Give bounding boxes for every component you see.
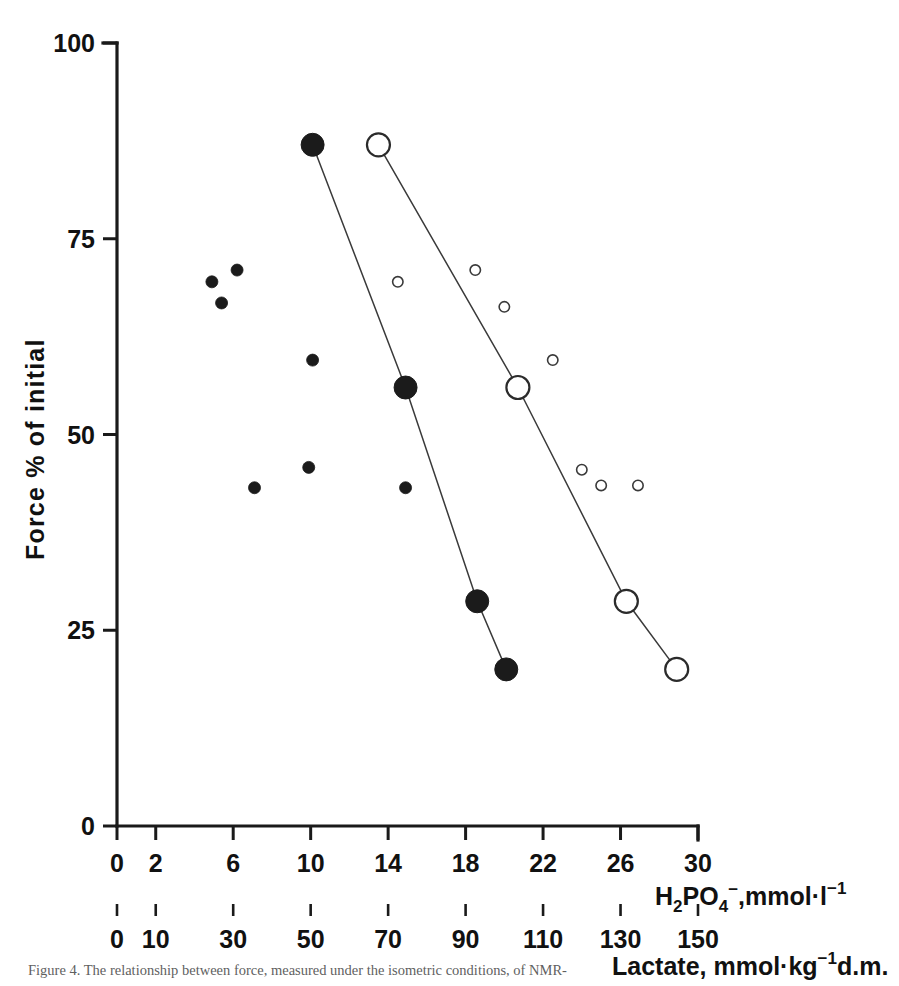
x-axis-secondary-ticks: [117, 904, 698, 916]
marker-open-small: [577, 465, 587, 475]
figure-caption: Figure 4. The relationship between force…: [28, 962, 888, 979]
marker-open-large: [615, 590, 638, 613]
marker-filled-small: [249, 482, 261, 494]
marker-open-small: [633, 480, 643, 490]
marker-filled-small: [206, 276, 218, 288]
xtitle-charge: −: [728, 880, 738, 899]
marker-filled-small: [303, 461, 315, 473]
xtitle-sup: −1: [827, 879, 846, 898]
scatter-chart: Force % of initial 0255075100 0261014182…: [0, 0, 899, 986]
x-tick-label-secondary: 150: [677, 925, 719, 953]
x-tick-label-primary: 2: [149, 849, 163, 877]
x-axis-primary-title: H2PO4−,mmol·l−1: [655, 879, 846, 916]
x-axis-primary-ticks: [117, 826, 698, 840]
xtitle-unit: ,mmol·l: [738, 882, 827, 910]
marker-open-small: [499, 302, 509, 312]
marker-open-small: [470, 265, 480, 275]
y-tick-label: 25: [67, 616, 95, 644]
marker-filled-small: [216, 297, 228, 309]
x-tick-label-primary: 22: [529, 849, 557, 877]
x-tick-label-primary: 30: [684, 849, 712, 877]
marker-open-large: [506, 376, 529, 399]
xtitle-sub4: 4: [719, 897, 729, 916]
x-tick-label-secondary: 10: [142, 925, 170, 953]
marker-filled-small: [231, 264, 243, 276]
marker-open-small: [393, 277, 403, 287]
y-axis-ticks: [103, 43, 117, 826]
y-axis-title: Force % of initial: [21, 338, 49, 560]
x-tick-label-secondary: 130: [600, 925, 642, 953]
x-tick-label-primary: 18: [452, 849, 480, 877]
marker-open-small: [548, 355, 558, 365]
y-axis-tick-labels: 0255075100: [53, 29, 95, 840]
x-tick-label-secondary: 110: [523, 925, 563, 953]
x-tick-label-secondary: 70: [374, 925, 402, 953]
figure-root: Force % of initial 0255075100 0261014182…: [0, 0, 899, 986]
x-tick-label-secondary: 50: [297, 925, 325, 953]
y-tick-label: 0: [81, 812, 95, 840]
x-tick-label-primary: 0: [110, 849, 124, 877]
y-tick-label: 50: [67, 421, 95, 449]
data-series-markers: [206, 133, 688, 681]
axis-lines: [103, 43, 698, 840]
marker-filled-large: [466, 590, 489, 613]
marker-open-small: [596, 480, 606, 490]
x-tick-label-secondary: 90: [452, 925, 480, 953]
svg-text:H2PO4−,mmol·l−1: H2PO4−,mmol·l−1: [655, 879, 846, 916]
y-tick-label: 100: [53, 29, 95, 57]
xtitle-h: H: [655, 882, 673, 910]
x-tick-label-primary: 26: [607, 849, 635, 877]
x-tick-label-secondary: 0: [110, 925, 124, 953]
marker-open-large: [665, 658, 688, 681]
x-tick-label-secondary: 30: [219, 925, 247, 953]
y-tick-label: 75: [67, 225, 95, 253]
x-tick-label-primary: 10: [297, 849, 325, 877]
x-axis-primary-tick-labels: 026101418222630: [110, 849, 712, 877]
marker-filled-small: [400, 482, 412, 494]
marker-filled-large: [495, 658, 518, 681]
x-tick-label-primary: 6: [226, 849, 240, 877]
marker-filled-large: [301, 133, 324, 156]
xtitle-sub2: 2: [673, 897, 682, 916]
xtitle-po: PO: [683, 882, 719, 910]
x-tick-label-primary: 14: [374, 849, 402, 877]
marker-filled-large: [394, 376, 417, 399]
marker-open-large: [367, 133, 390, 156]
x-axis-secondary-tick-labels: 01030507090110130150: [110, 925, 719, 953]
marker-filled-small: [307, 354, 319, 366]
